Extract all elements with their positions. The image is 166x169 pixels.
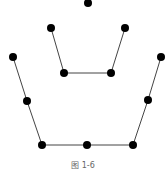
- graph-node-outer-mid-left: [23, 97, 31, 105]
- graph-node-inner-bottom-right: [107, 69, 115, 77]
- graph-edge: [133, 100, 148, 145]
- graph-edge: [13, 57, 27, 101]
- graph-diagram: [0, 0, 166, 169]
- figure-caption: 图 1-6: [0, 161, 166, 169]
- graph-node-outer-top-left: [9, 53, 17, 61]
- graph-edge: [148, 57, 161, 100]
- graph-nodes: [9, 0, 165, 149]
- graph-node-outer-bottom-right: [129, 141, 137, 149]
- graph-edge: [27, 101, 42, 145]
- graph-node-outer-top-right: [157, 53, 165, 61]
- graph-edge: [51, 28, 64, 73]
- graph-node-inner-top-right: [121, 24, 129, 32]
- graph-node-outer-bottom-mid: [83, 141, 91, 149]
- graph-node-top: [84, 0, 92, 7]
- graph-node-outer-bottom-left: [38, 141, 46, 149]
- graph-node-inner-bottom-left: [60, 69, 68, 77]
- graph-edges: [13, 28, 161, 145]
- graph-node-inner-top-left: [47, 24, 55, 32]
- graph-node-outer-mid-right: [144, 96, 152, 104]
- graph-edge: [111, 28, 125, 73]
